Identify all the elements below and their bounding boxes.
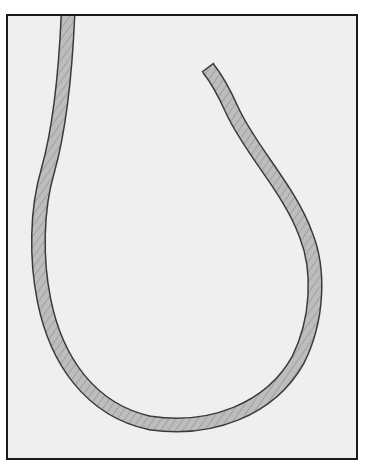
rope-illustration (0, 0, 376, 465)
rope-outline (38, 15, 315, 425)
rope-body (38, 15, 315, 425)
